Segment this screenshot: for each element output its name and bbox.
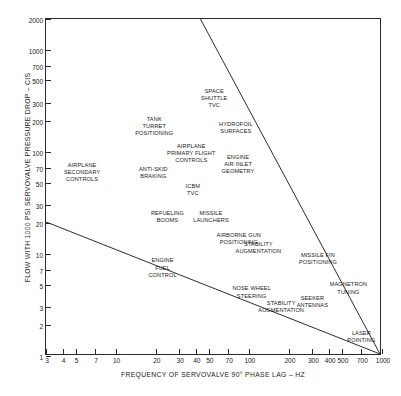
y-tick: 20 [46, 223, 51, 224]
x-tick: 4 [63, 349, 64, 354]
application-label: ENGINE AIR INLET GEOMETRY [222, 154, 255, 176]
y-tick: 70 [46, 168, 51, 169]
application-label: STABILITY AUGMENTATION [236, 241, 282, 255]
y-tick: 500 [46, 80, 51, 81]
application-label: REFUELING BOOMS [151, 210, 184, 224]
y-tick: 100 [46, 152, 51, 153]
y-tick-label: 500 [32, 78, 43, 85]
x-tick: 30 [179, 349, 180, 354]
application-label: AIRPLANE SECONDARY CONTROLS [64, 162, 100, 184]
x-tick: 500 [342, 349, 343, 354]
envelope-lines [46, 19, 380, 354]
x-axis-title: FREQUENCY OF SERVOVALVE 90° PHASE LAG – … [45, 371, 381, 378]
y-tick: 30 [46, 205, 51, 206]
x-tick-label: 3 [45, 357, 49, 364]
y-tick: 300 [46, 103, 51, 104]
application-label: SEEKER ANTENNAS [297, 295, 328, 309]
application-label: LASER POINTING [347, 329, 375, 343]
x-tick: 1000 [382, 349, 383, 354]
x-tick-label: 100 [244, 357, 255, 364]
plot-area: 12357102030507010020030050070010002000 3… [45, 18, 381, 355]
y-tick-label: 2000 [29, 17, 43, 24]
y-axis-title: FLOW WITH 1000 PSI SERVOVALVE PRESSURE D… [24, 28, 31, 328]
application-label: NOSE WHEEL STEERING [232, 285, 271, 299]
x-tick: 7 [95, 349, 96, 354]
application-label: AIRPLANE PRIMARY FLIGHT CONTROLS [167, 143, 215, 165]
x-tick: 50 [209, 349, 210, 354]
y-tick: 700 [46, 66, 51, 67]
y-tick: 5 [46, 285, 51, 286]
application-label: SPACE SHUTTLE TVC [201, 88, 227, 110]
y-tick-label: 200 [32, 119, 43, 126]
x-tick-label: 700 [357, 357, 368, 364]
application-label: MISSILE LAUNCHERS [193, 210, 229, 224]
x-tick-label: 300 [308, 357, 319, 364]
x-tick-label: 5 [75, 357, 79, 364]
y-tick-label: 30 [36, 203, 43, 210]
x-tick-label: 10 [113, 357, 120, 364]
x-tick-label: 200 [285, 357, 296, 364]
y-tick-label: 5 [39, 282, 43, 289]
y-tick: 2 [46, 325, 51, 326]
y-tick: 2000 [46, 19, 51, 20]
application-label: TANK TURRET POSITIONING [135, 116, 173, 138]
y-tick-label: 2 [39, 323, 43, 330]
application-label: ICBM TVC [186, 183, 200, 197]
y-tick: 3 [46, 307, 51, 308]
chart-figure: 12357102030507010020030050070010002000 3… [0, 0, 401, 396]
x-tick: 70 [228, 349, 229, 354]
x-tick: 700 [361, 349, 362, 354]
y-tick-label: 70 [36, 165, 43, 172]
x-tick: 400 [329, 349, 330, 354]
y-tick-label: 100 [32, 149, 43, 156]
application-label: MAGNETRON TUNING [330, 281, 367, 295]
x-tick-label: 7 [94, 357, 98, 364]
y-tick: 10 [46, 254, 51, 255]
y-tick: 1000 [46, 50, 51, 51]
y-tick-label: 10 [36, 251, 43, 258]
x-tick: 100 [249, 349, 250, 354]
y-tick-label: 700 [32, 63, 43, 70]
application-label: HYDROFOIL SURFACES [219, 121, 253, 135]
y-tick-label: 20 [36, 221, 43, 228]
x-tick: 40 [196, 349, 197, 354]
y-tick: 50 [46, 183, 51, 184]
y-tick-label: 50 [36, 180, 43, 187]
x-tick: 200 [289, 349, 290, 354]
x-tick: 300 [312, 349, 313, 354]
x-tick-label: 1000 [376, 357, 390, 364]
x-tick-label: 30 [177, 357, 184, 364]
x-tick: 5 [76, 349, 77, 354]
x-tick-label: 500 [338, 357, 349, 364]
y-tick-label: 1000 [29, 47, 43, 54]
y-tick-label: 3 [39, 305, 43, 312]
y-tick-label: 7 [39, 267, 43, 274]
y-tick-label: 300 [32, 101, 43, 108]
x-tick-label: 40 [193, 357, 200, 364]
application-label: ANTI-SKID BRAKING [139, 166, 168, 180]
x-tick-label: 4 [62, 357, 66, 364]
y-tick: 7 [46, 270, 51, 271]
x-tick: 10 [116, 349, 117, 354]
x-tick: 20 [156, 349, 157, 354]
y-tick-label: 1 [39, 354, 43, 361]
x-tick: 3 [46, 349, 47, 354]
x-tick-label: 50 [206, 357, 213, 364]
application-label: MISSILE FIN POSITIONING [299, 251, 337, 265]
x-tick-label: 20 [153, 357, 160, 364]
x-tick-label: 400 [325, 357, 336, 364]
x-tick-label: 70 [226, 357, 233, 364]
y-tick: 200 [46, 121, 51, 122]
application-label: ENGINE FUEL CONTROL [148, 258, 176, 280]
